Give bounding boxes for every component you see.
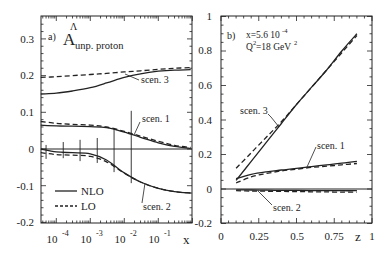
svg-text:-1: -1	[164, 229, 171, 238]
a-xtick-1e-4: 10 -4	[47, 229, 69, 245]
a-title-sup: Λ	[70, 21, 78, 32]
legend: NLO LO	[55, 185, 104, 212]
a-ytick-neg0.2: -0.2	[17, 216, 34, 228]
panel-a-error-bars	[46, 111, 131, 183]
a-scen2-label: scen. 2	[143, 201, 171, 212]
b-scen1-label: scen. 1	[317, 140, 345, 151]
b-ytick-0.2: 0.2	[198, 148, 212, 160]
b-ytick-1: 1	[207, 10, 213, 22]
b-scen2-leader	[258, 191, 272, 205]
a-scen2-leader	[142, 183, 145, 203]
panel-a-curves	[41, 68, 191, 194]
panel-b-chart: 1 0.8 0.6 0.4 0.2 0 -0.2 0 0.25 0.5 0.75…	[195, 10, 375, 244]
svg-text:-2: -2	[130, 229, 137, 238]
svg-text:x=5.6 10: x=5.6 10	[246, 30, 280, 40]
a-ytick-0.2: 0.2	[20, 69, 34, 81]
b-panel-label: b)	[227, 30, 235, 42]
a-panel-label: a)	[48, 31, 56, 43]
b-xtick-1: 1	[369, 230, 375, 242]
a-scen1-leader	[134, 122, 140, 135]
b-xtick-0.25: 0.25	[249, 230, 269, 242]
svg-text:-3: -3	[96, 229, 103, 238]
figure: 0.3 0.2 0.1 0 -0.1 -0.2 10 -4 10 -3 10 -…	[0, 0, 389, 256]
a-title-sub: unp. proton	[75, 40, 124, 51]
svg-text:10: 10	[115, 233, 127, 245]
a-xtick-1e-2: 10 -2	[115, 229, 137, 245]
a-ytick-0: 0	[29, 143, 35, 155]
b-ytick-0: 0	[207, 183, 213, 195]
b-scen1-leader	[307, 147, 316, 167]
a-scen1-label: scen. 1	[142, 113, 170, 124]
b-ytick-0.6: 0.6	[198, 79, 212, 91]
svg-text:-4: -4	[282, 27, 288, 34]
a-ytick-0.3: 0.3	[20, 33, 34, 45]
legend-lo-label: LO	[81, 200, 96, 212]
a-series-scen-2-lo	[41, 153, 191, 193]
b-xtick-0.75: 0.75	[324, 230, 344, 242]
b-info-q2: Q 2 =18 GeV 2	[246, 39, 297, 52]
b-xtick-0: 0	[218, 230, 224, 242]
b-xlabel: z	[355, 229, 361, 244]
svg-text:10: 10	[81, 233, 93, 245]
a-xtick-1e-1: 10 -1	[149, 229, 171, 245]
svg-text:=18 GeV: =18 GeV	[256, 42, 291, 52]
b-ytick-0.8: 0.8	[198, 44, 212, 56]
svg-text:10: 10	[47, 233, 59, 245]
legend-nlo-label: NLO	[81, 185, 104, 197]
svg-text:-4: -4	[62, 229, 69, 238]
svg-text:Q: Q	[246, 42, 253, 52]
b-ytick-0.4: 0.4	[198, 114, 212, 126]
a-xtick-1e-3: 10 -3	[81, 229, 103, 245]
b-xtick-0.5: 0.5	[290, 230, 304, 242]
b-scen3-leader	[268, 114, 279, 127]
svg-text:2: 2	[294, 39, 297, 46]
a-ytick-neg0.1: -0.1	[17, 180, 34, 192]
panel-a-chart: 0.3 0.2 0.1 0 -0.1 -0.2 10 -4 10 -3 10 -…	[17, 16, 193, 247]
a-scen3-label: scen. 3	[141, 74, 169, 85]
b-scen2-label: scen. 2	[273, 202, 301, 213]
b-ytick-neg0.2: -0.2	[195, 217, 212, 229]
b-scen3-label: scen. 3	[240, 105, 268, 116]
a-ytick-0.1: 0.1	[20, 106, 34, 118]
svg-text:10: 10	[149, 233, 161, 245]
a-xlabel: x	[183, 232, 190, 247]
